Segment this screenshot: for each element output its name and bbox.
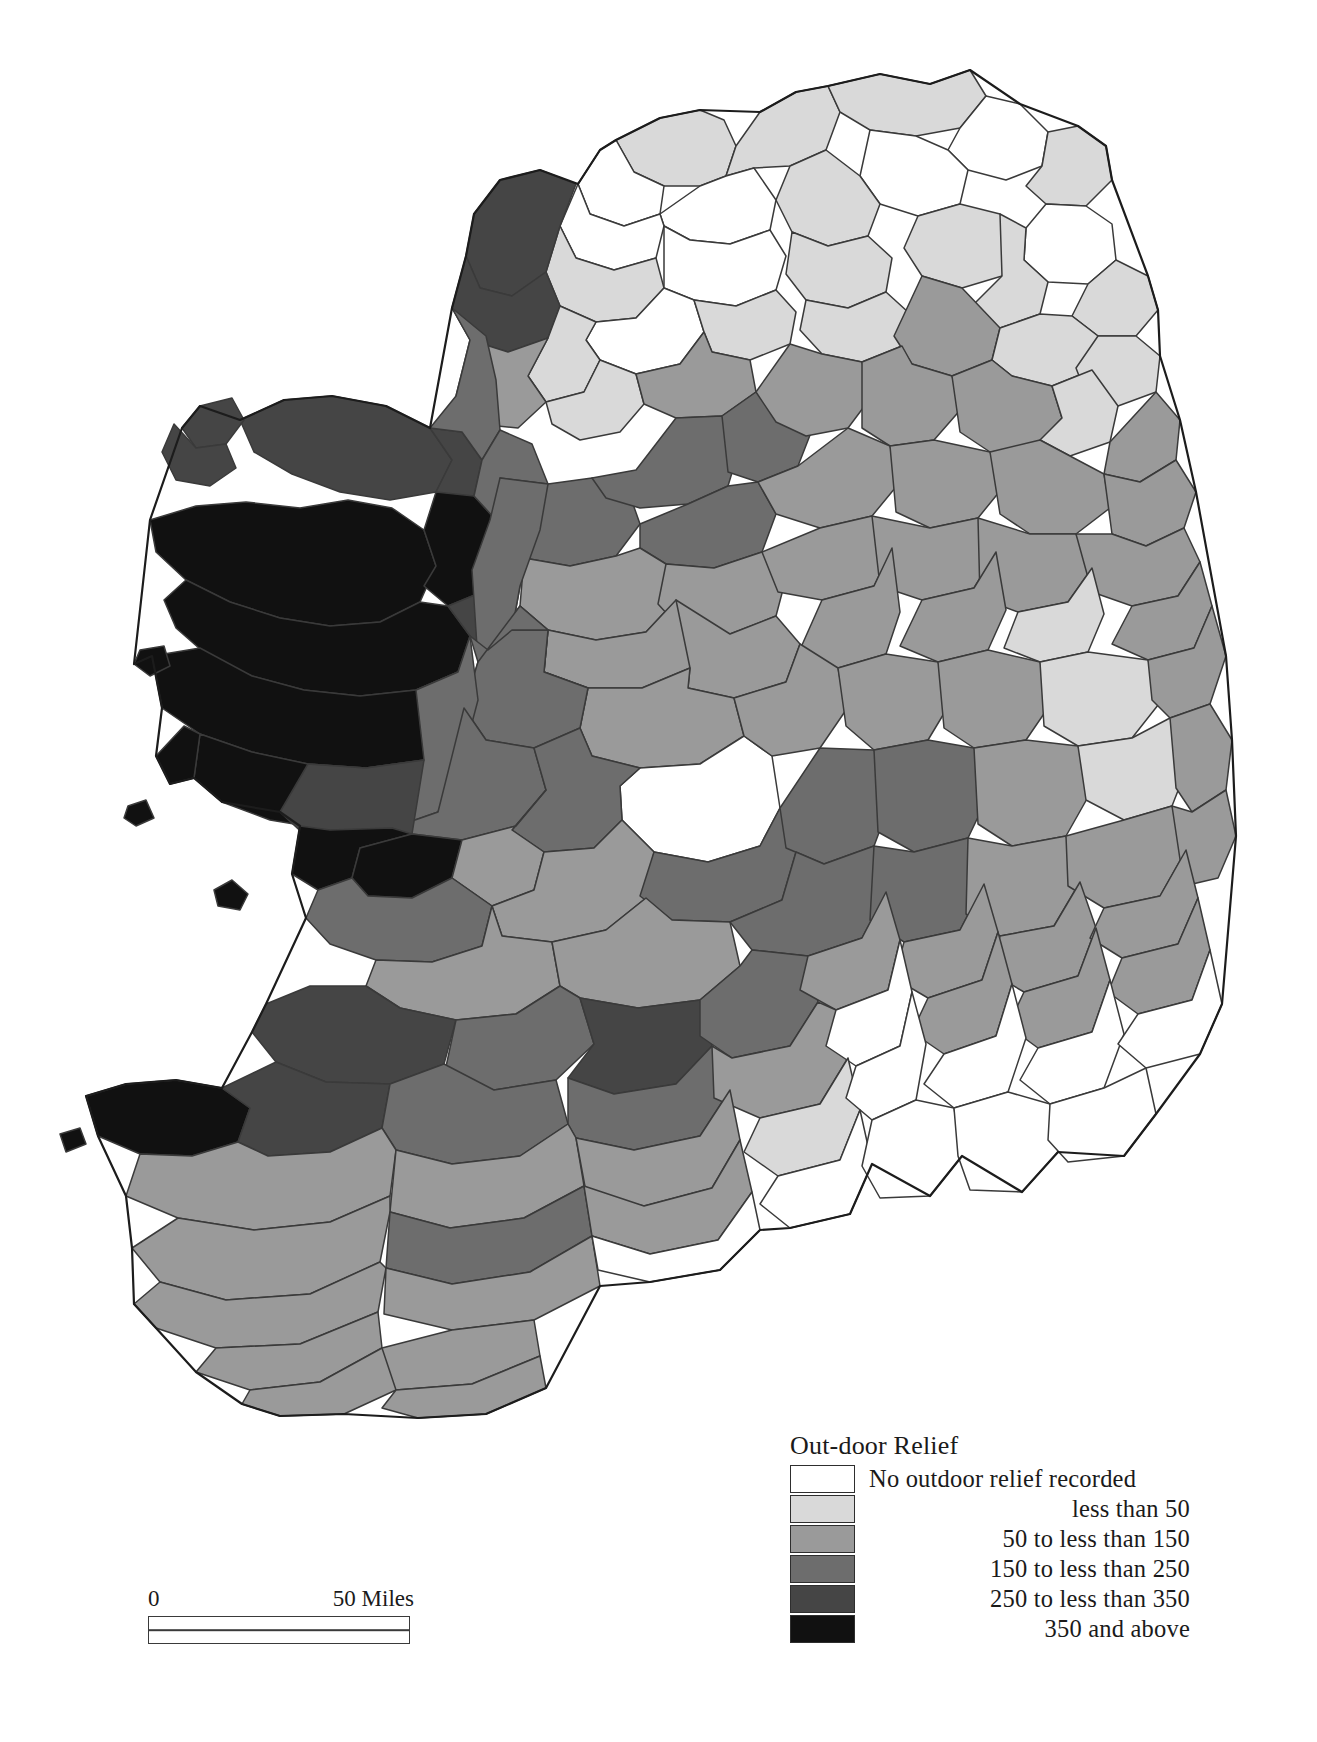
union-area[interactable] xyxy=(214,880,248,910)
union-area[interactable] xyxy=(890,440,1004,528)
legend-row-150-250[interactable]: 150 to less than 250 xyxy=(790,1554,1190,1584)
map-page: Out-door Relief No outdoor relief record… xyxy=(0,0,1317,1742)
legend-swatch-150-250 xyxy=(790,1555,855,1583)
legend-label-no-relief: No outdoor relief recorded xyxy=(855,1467,1190,1492)
legend-swatch-no-relief xyxy=(790,1465,855,1493)
union-area[interactable] xyxy=(60,1128,86,1152)
legend-label-50-150: 50 to less than 150 xyxy=(855,1527,1190,1552)
scalebar-min-label: 0 xyxy=(148,1586,160,1612)
union-area[interactable] xyxy=(954,1092,1058,1192)
map-legend: Out-door Relief No outdoor relief record… xyxy=(790,1432,1190,1644)
legend-swatch-250-350 xyxy=(790,1585,855,1613)
union-area[interactable] xyxy=(124,800,154,826)
legend-label-150-250: 150 to less than 250 xyxy=(855,1557,1190,1582)
union-area[interactable] xyxy=(86,1080,250,1156)
map-region-ulster xyxy=(546,70,1160,406)
legend-row-less-than-50[interactable]: less than 50 xyxy=(790,1494,1190,1524)
union-area[interactable] xyxy=(904,204,1016,288)
scalebar-labels: 0 50 Miles xyxy=(148,1586,410,1616)
union-area[interactable] xyxy=(874,740,990,852)
union-area[interactable] xyxy=(156,726,200,784)
map-scalebar: 0 50 Miles xyxy=(148,1586,410,1644)
scalebar-max-label: 50 Miles xyxy=(333,1586,414,1612)
union-area[interactable] xyxy=(182,398,244,448)
union-area[interactable] xyxy=(974,740,1092,846)
legend-title: Out-door Relief xyxy=(790,1432,1190,1459)
legend-swatch-less-than-50 xyxy=(790,1495,855,1523)
legend-label-350-above: 350 and above xyxy=(855,1617,1190,1642)
union-area[interactable] xyxy=(990,440,1110,534)
union-area[interactable] xyxy=(838,654,952,750)
legend-row-250-350[interactable]: 250 to less than 350 xyxy=(790,1584,1190,1614)
legend-label-250-350: 250 to less than 350 xyxy=(855,1587,1190,1612)
union-area[interactable] xyxy=(240,396,452,500)
legend-row-350-above[interactable]: 350 and above xyxy=(790,1614,1190,1644)
legend-swatch-350-above xyxy=(790,1615,855,1643)
scalebar-bar xyxy=(148,1616,410,1644)
legend-row-no-relief[interactable]: No outdoor relief recorded xyxy=(790,1464,1190,1494)
legend-row-50-150[interactable]: 50 to less than 150 xyxy=(790,1524,1190,1554)
union-area[interactable] xyxy=(938,650,1052,748)
legend-swatch-50-150 xyxy=(790,1525,855,1553)
legend-label-less-than-50: less than 50 xyxy=(855,1497,1190,1522)
